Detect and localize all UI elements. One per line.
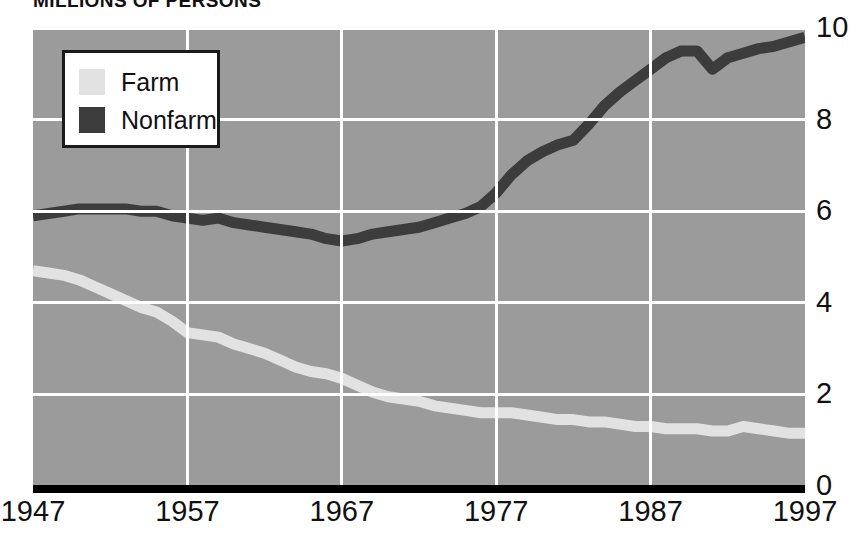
gridline-x-1977 bbox=[495, 28, 498, 486]
gridline-x-1987 bbox=[649, 28, 652, 486]
x-tick-label-1997: 1997 bbox=[773, 497, 838, 526]
x-tick-label-1987: 1987 bbox=[618, 497, 683, 526]
chart-legend: Farm Nonfarm bbox=[62, 50, 220, 148]
legend-swatch-farm bbox=[79, 69, 105, 95]
legend-item-nonfarm: Nonfarm bbox=[79, 101, 217, 139]
x-tick-label-1947: 1947 bbox=[1, 497, 66, 526]
gridline-y-2 bbox=[33, 393, 805, 396]
series-line-farm bbox=[33, 271, 805, 434]
y-tick-label-6: 6 bbox=[816, 196, 832, 225]
x-tick-label-1957: 1957 bbox=[155, 497, 220, 526]
legend-label-nonfarm: Nonfarm bbox=[121, 108, 217, 133]
legend-item-farm: Farm bbox=[79, 63, 217, 101]
gridline-x-1967 bbox=[340, 28, 343, 486]
y-tick-label-8: 8 bbox=[816, 105, 832, 134]
y-tick-label-2: 2 bbox=[816, 379, 832, 408]
x-tick-label-1967: 1967 bbox=[310, 497, 375, 526]
legend-label-farm: Farm bbox=[121, 70, 179, 95]
x-tick-label-1977: 1977 bbox=[464, 497, 529, 526]
gridline-y-6 bbox=[33, 210, 805, 213]
gridline-y-10 bbox=[33, 28, 805, 30]
x-axis-baseline bbox=[33, 485, 805, 493]
page-title: MILLIONS OF PERSONS bbox=[33, 0, 261, 11]
legend-swatch-nonfarm bbox=[79, 107, 105, 133]
gridline-y-4 bbox=[33, 301, 805, 304]
y-tick-label-10: 10 bbox=[816, 13, 848, 42]
y-tick-label-4: 4 bbox=[816, 288, 832, 317]
